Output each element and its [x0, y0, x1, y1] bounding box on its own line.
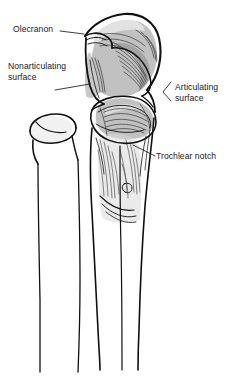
label-articulating-surface: Articulating surface [175, 82, 218, 104]
shading-layer [29, 20, 157, 223]
label-nonarticulating-line1: Nonarticulating [8, 61, 66, 72]
label-articulating-line2: surface [175, 93, 218, 104]
leader-olecranon [60, 31, 84, 34]
label-trochlear-notch: Trochlear notch [156, 151, 216, 162]
label-nonarticulating-surface: Nonarticulating surface [8, 61, 66, 83]
label-nonarticulating-line2: surface [8, 72, 66, 83]
leader-nonarticulating [55, 84, 90, 90]
label-olecranon: Olecranon [13, 24, 53, 35]
leader-articulating-bracket [163, 82, 171, 101]
label-articulating-line1: Articulating [175, 82, 218, 93]
anatomy-figure: Olecranon Nonarticulating surface Articu… [0, 0, 233, 377]
anatomical-illustration [0, 0, 233, 377]
